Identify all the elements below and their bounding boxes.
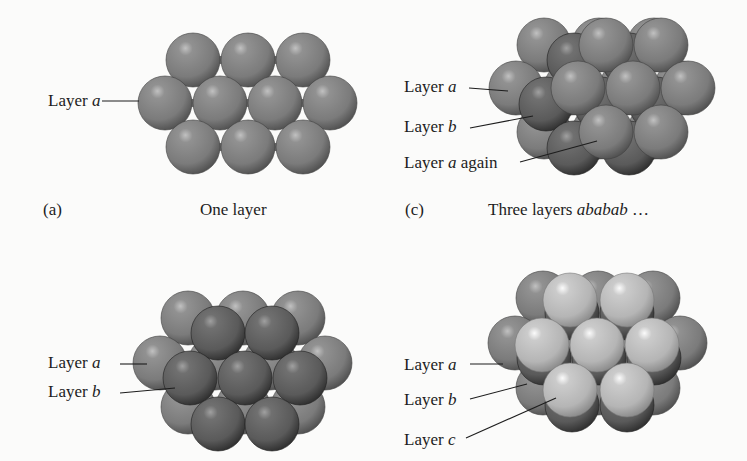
layer-label: Layer c (404, 430, 456, 449)
sphere (273, 351, 327, 405)
sphere (166, 120, 220, 174)
layer-label: Layer b (404, 390, 456, 409)
panel-caption: Three layers ababab … (488, 200, 649, 219)
panel-tag: (a) (43, 200, 62, 219)
sphere (570, 318, 624, 372)
sphere (634, 105, 688, 159)
layer-label: Layer b (404, 117, 456, 136)
layer-label: Layer a again (404, 153, 498, 172)
panel-two-layers: Layer aLayer b (48, 291, 352, 451)
sphere (191, 306, 245, 360)
close-packing-figure: Layer a(a)One layer Layer aLayer bLayer … (0, 0, 747, 461)
layer-label: Layer a (404, 355, 456, 374)
sphere (163, 351, 217, 405)
layer-label: Layer a (48, 353, 100, 372)
sphere (276, 120, 330, 174)
sphere (579, 105, 633, 159)
sphere (515, 318, 569, 372)
panel-abc-layers: Layer aLayer bLayer c (404, 271, 707, 449)
panel-caption: One layer (200, 200, 267, 219)
sphere (245, 397, 299, 451)
sphere (245, 306, 299, 360)
sphere (191, 397, 245, 451)
panel-one-layer: Layer a(a)One layer (43, 33, 357, 219)
sphere (543, 363, 597, 417)
panel-tag: (c) (405, 200, 424, 219)
leader-line (466, 398, 556, 438)
sphere (600, 363, 654, 417)
panel-three-layers: Layer aLayer bLayer a again(c)Three laye… (404, 18, 715, 219)
sphere (221, 120, 275, 174)
sphere (218, 351, 272, 405)
sphere (543, 273, 597, 327)
layer-label: Layer a (48, 91, 100, 110)
layer-label: Layer a (404, 77, 456, 96)
layer-label: Layer b (48, 382, 100, 401)
